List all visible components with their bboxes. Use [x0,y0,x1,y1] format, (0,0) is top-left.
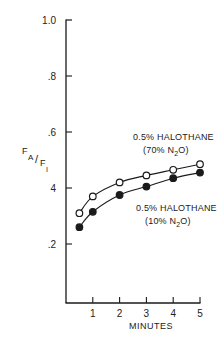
open-circle-marker [76,210,83,217]
open-circle-marker [143,172,150,179]
open-circle-marker [90,193,97,200]
y-tick-label: 4 [50,183,56,194]
y-axis-label: F A / F I [22,146,48,173]
annotation-70-post: O) [178,145,188,155]
line-chart: .24.6.81.0 12345 F A / F I MINUTES 0.5% … [0,0,224,344]
x-axis-label: MINUTES [129,321,173,331]
x-axis-ticks: 12345 [90,297,203,319]
x-tick-label: 2 [117,308,123,319]
annotation-series-70-n2o: 0.5% HALOTHANE (70% N2O) [133,132,214,157]
open-circle-marker [116,179,123,186]
filled-circle-marker [116,192,123,199]
y-label-sub1: A [28,153,34,162]
annotation-10-post: O) [180,216,190,226]
open-circle-marker [170,167,177,174]
annotation-10-pre: (10% N [145,216,176,226]
filled-circle-marker [90,209,97,216]
annotation-10-line2: (10% N2O) [145,216,191,228]
annotation-series-10-n2o: 0.5% HALOTHANE (10% N2O) [136,203,217,228]
y-tick-label: .8 [48,71,57,82]
y-axis-ticks: .24.6.81.0 [42,15,72,250]
open-circle-marker [197,161,204,168]
x-tick-label: 1 [90,308,96,319]
annotation-10-line1: 0.5% HALOTHANE [136,203,217,213]
chart-axes [66,20,201,304]
annotation-70-line2: (70% N2O) [143,145,189,157]
filled-circle-marker [143,183,150,190]
y-label-sub2: I [46,166,48,173]
filled-circle-marker [197,169,204,176]
annotation-70-line1: 0.5% HALOTHANE [133,132,214,142]
x-tick-label: 5 [197,308,203,319]
y-tick-label: 1.0 [42,15,56,26]
x-tick-label: 4 [170,308,176,319]
y-label-slash: / [35,153,39,165]
filled-circle-marker [76,224,83,231]
x-tick-label: 3 [144,308,150,319]
y-tick-label: .6 [48,127,57,138]
annotation-70-pre: (70% N [143,145,174,155]
y-tick-label: .2 [48,239,57,250]
filled-circle-marker [170,175,177,182]
